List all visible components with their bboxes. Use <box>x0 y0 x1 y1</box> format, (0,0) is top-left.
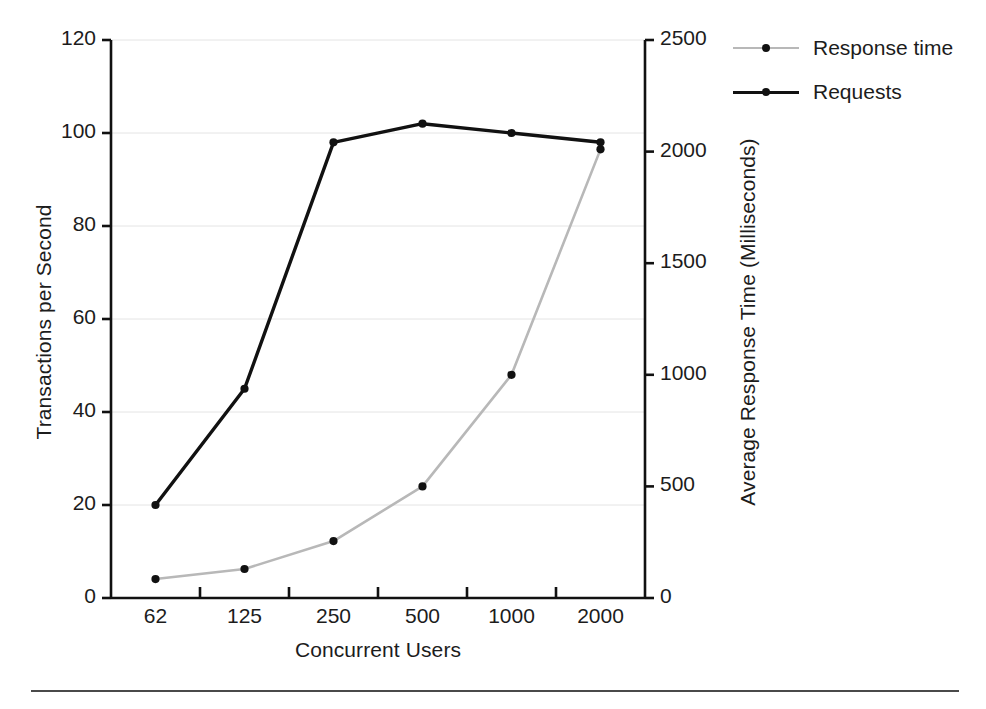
data-point <box>240 565 248 573</box>
legend-item-requests: Requests <box>733 70 983 114</box>
legend-item-response-time: Response time <box>733 26 983 70</box>
data-point <box>151 575 159 583</box>
x-axis-title: Concurrent Users <box>111 638 645 662</box>
right-tick-label: 0 <box>660 584 780 608</box>
legend-marker-icon <box>762 44 770 52</box>
x-tick-label: 2000 <box>541 604 661 628</box>
data-point <box>418 482 426 490</box>
data-point <box>596 145 604 153</box>
series-line-requests <box>156 124 601 505</box>
right-axis-title: Average Response Time (Milliseconds) <box>736 112 760 532</box>
gridlines <box>111 40 645 505</box>
legend-swatch-requests <box>733 85 799 99</box>
caption-text-clipped <box>31 697 959 709</box>
data-point <box>329 138 337 146</box>
chart-legend: Response time Requests <box>733 26 983 114</box>
data-point <box>507 129 515 137</box>
left-axis-title: Transactions per Second <box>32 112 56 532</box>
right-tick-label: 500 <box>660 472 780 496</box>
data-point <box>418 120 426 128</box>
legend-marker-icon <box>762 88 770 96</box>
right-tick-label: 2000 <box>660 138 780 162</box>
legend-label-response-time: Response time <box>813 36 953 60</box>
data-point <box>507 371 515 379</box>
legend-swatch-response-time <box>733 41 799 55</box>
figure: 020406080100120 05001000150020002500 621… <box>0 0 986 709</box>
legend-label-requests: Requests <box>813 80 902 104</box>
series-line-response-time <box>156 149 601 579</box>
data-point <box>151 501 159 509</box>
right-tick-label: 1500 <box>660 249 780 273</box>
data-point <box>596 138 604 146</box>
left-tick-label: 0 <box>0 584 96 608</box>
data-point <box>329 537 337 545</box>
caption-divider <box>31 690 959 692</box>
series-layer <box>151 120 604 584</box>
left-tick-label: 120 <box>0 26 96 50</box>
data-point <box>240 385 248 393</box>
right-tick-label: 1000 <box>660 361 780 385</box>
